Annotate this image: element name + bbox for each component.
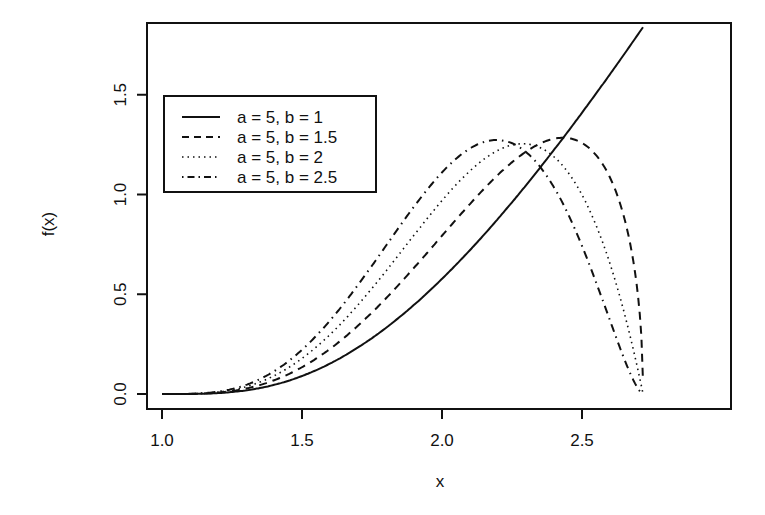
legend-label: a = 5, b = 2 bbox=[237, 148, 323, 167]
curves bbox=[162, 27, 643, 394]
x-tick-label: 1.5 bbox=[290, 431, 314, 450]
y-axis: 0.00.51.01.5 bbox=[111, 83, 147, 406]
x-tick-label: 2.0 bbox=[430, 431, 454, 450]
x-axis-title: x bbox=[436, 472, 445, 491]
x-tick-label: 2.5 bbox=[570, 431, 594, 450]
legend-label: a = 5, b = 2.5 bbox=[237, 168, 337, 187]
plot-frame bbox=[147, 23, 731, 409]
legend-label: a = 5, b = 1.5 bbox=[237, 128, 337, 147]
legend: a = 5, b = 1 a = 5, b = 1.5 a = 5, b = 2… bbox=[164, 96, 376, 192]
legend-label: a = 5, b = 1 bbox=[237, 108, 323, 127]
y-tick-label: 0.5 bbox=[111, 282, 130, 306]
y-tick-label: 1.5 bbox=[111, 83, 130, 107]
y-axis-title: f(x) bbox=[39, 212, 58, 237]
x-axis: 1.01.52.02.5 bbox=[150, 409, 594, 450]
chart: 1.01.52.02.5 0.00.51.01.5 x f(x) a = 5, … bbox=[0, 0, 765, 515]
y-tick-label: 0.0 bbox=[111, 382, 130, 406]
x-tick-label: 1.0 bbox=[150, 431, 174, 450]
y-tick-label: 1.0 bbox=[111, 183, 130, 207]
curve-solid bbox=[162, 27, 643, 394]
